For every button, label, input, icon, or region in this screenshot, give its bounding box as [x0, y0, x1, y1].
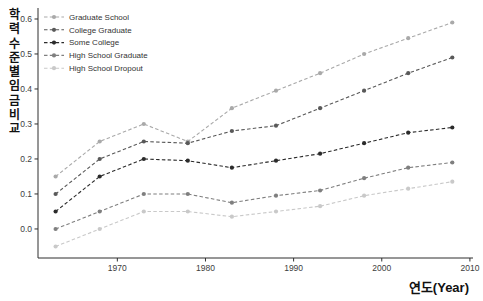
data-point-college-graduate	[230, 129, 234, 133]
data-point-high-school-graduate	[142, 192, 146, 196]
y-tick-label: 0.6	[20, 14, 32, 24]
data-point-college-graduate	[54, 192, 58, 196]
legend-label-high-school-dropout: High School Dropout	[69, 64, 144, 73]
y-tick-label: 0.4	[20, 84, 32, 94]
x-axis-label: 연도(Year)	[409, 277, 469, 296]
data-point-high-school-graduate	[186, 192, 190, 196]
data-point-college-graduate	[450, 55, 454, 59]
x-tick-label: 1990	[284, 263, 303, 273]
legend-swatch-marker-college-graduate	[52, 28, 56, 32]
chart-figure: 학력수준별임금비교 0.00.10.20.30.40.50.6197019801…	[0, 0, 483, 301]
legend-swatch-marker-high-school-dropout	[52, 66, 56, 70]
data-point-high-school-graduate	[274, 194, 278, 198]
data-point-high-school-graduate	[450, 160, 454, 164]
legend-swatch-marker-some-college	[52, 41, 56, 45]
y-tick-label: 0.3	[20, 119, 32, 129]
data-point-graduate-school	[450, 20, 454, 24]
data-point-college-graduate	[274, 124, 278, 128]
data-point-graduate-school	[362, 52, 366, 56]
data-point-high-school-dropout	[362, 194, 366, 198]
data-point-high-school-graduate	[318, 188, 322, 192]
data-point-high-school-dropout	[54, 244, 58, 248]
data-point-high-school-graduate	[230, 201, 234, 205]
data-point-college-graduate	[406, 71, 410, 75]
data-point-high-school-graduate	[362, 176, 366, 180]
data-point-high-school-graduate	[406, 166, 410, 170]
x-tick-label: 2000	[372, 263, 391, 273]
data-point-high-school-graduate	[54, 227, 58, 231]
data-point-college-graduate	[142, 139, 146, 143]
data-point-college-graduate	[186, 141, 190, 145]
data-point-some-college	[274, 159, 278, 163]
legend-label-high-school-graduate: High School Graduate	[69, 51, 148, 60]
data-point-high-school-dropout	[274, 209, 278, 213]
data-point-some-college	[318, 152, 322, 156]
series-line-high-school-dropout	[56, 182, 453, 247]
data-point-graduate-school	[230, 106, 234, 110]
data-point-high-school-dropout	[318, 204, 322, 208]
x-tick-label: 1980	[196, 263, 215, 273]
legend-label-some-college: Some College	[69, 38, 120, 47]
data-point-some-college	[230, 166, 234, 170]
data-point-some-college	[142, 157, 146, 161]
data-point-high-school-dropout	[98, 227, 102, 231]
data-point-some-college	[362, 141, 366, 145]
series-line-college-graduate	[56, 58, 453, 195]
data-point-graduate-school	[54, 174, 58, 178]
data-point-graduate-school	[142, 122, 146, 126]
data-point-some-college	[450, 125, 454, 129]
legend-label-graduate-school: Graduate School	[69, 13, 129, 22]
y-tick-label: 0.0	[20, 224, 32, 234]
x-tick-label: 1970	[108, 263, 127, 273]
data-point-graduate-school	[98, 139, 102, 143]
data-point-high-school-dropout	[406, 187, 410, 191]
series-line-high-school-graduate	[56, 163, 453, 230]
data-point-some-college	[54, 209, 58, 213]
legend-label-college-graduate: College Graduate	[69, 26, 132, 35]
data-point-graduate-school	[318, 71, 322, 75]
data-point-college-graduate	[318, 106, 322, 110]
data-point-high-school-dropout	[142, 209, 146, 213]
data-point-high-school-dropout	[450, 180, 454, 184]
data-point-college-graduate	[362, 89, 366, 93]
data-point-high-school-dropout	[186, 209, 190, 213]
legend-swatch-marker-graduate-school	[52, 15, 56, 19]
legend-swatch-marker-high-school-graduate	[52, 53, 56, 57]
data-point-graduate-school	[406, 36, 410, 40]
line-chart: 0.00.10.20.30.40.50.61970198019902000201…	[0, 0, 483, 301]
data-point-college-graduate	[98, 157, 102, 161]
data-point-some-college	[406, 131, 410, 135]
y-tick-label: 0.1	[20, 189, 32, 199]
x-tick-label: 2010	[460, 263, 479, 273]
data-point-high-school-graduate	[98, 209, 102, 213]
data-point-high-school-dropout	[230, 215, 234, 219]
data-point-some-college	[98, 174, 102, 178]
y-tick-label: 0.5	[20, 49, 32, 59]
y-tick-label: 0.2	[20, 154, 32, 164]
data-point-graduate-school	[274, 89, 278, 93]
data-point-some-college	[186, 159, 190, 163]
